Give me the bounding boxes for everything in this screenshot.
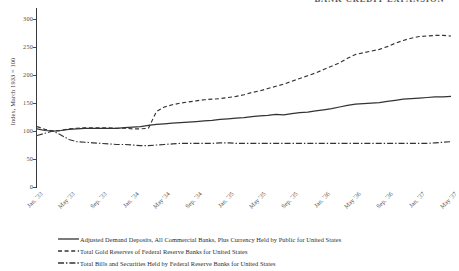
y-axis-title: Index, March 1933 = 100	[9, 37, 16, 147]
x-tick-label: Jan. '36	[307, 190, 330, 213]
legend-item-1[interactable]: Adjusted Demand Deposits, All Commercial…	[58, 233, 450, 245]
y-tick-label: 0	[3, 183, 33, 190]
y-tick-label: 250	[3, 43, 33, 50]
legend-line-swatch	[58, 258, 80, 268]
x-tick-label: Sep. '34	[180, 190, 203, 213]
x-tick-label: May '37	[435, 190, 458, 213]
x-tick-label: Jan. '34	[116, 190, 139, 213]
legend-label: Adjusted Demand Deposits, All Commercial…	[80, 236, 341, 243]
x-tick-label: Jan. '37	[403, 190, 426, 213]
legend-line-swatch	[58, 246, 80, 256]
x-tick-label: Sep. '33	[84, 190, 107, 213]
x-tick-label: Sep. '35	[275, 190, 298, 213]
x-tick-label: May '34	[148, 190, 171, 213]
x-tick-label: May '35	[244, 190, 267, 213]
chart-legend: Adjusted Demand Deposits, All Commercial…	[58, 233, 450, 269]
series-line-2	[37, 35, 451, 131]
y-tick-mark	[33, 159, 36, 160]
legend-label: Total Gold Reserves of Federal Reserve B…	[80, 248, 248, 255]
series-line-1	[37, 96, 451, 131]
chart-clipped-title: BANK CREDIT EXPANSION	[300, 0, 459, 3]
y-tick-mark	[33, 187, 36, 188]
series-line-3	[37, 131, 451, 146]
y-tick-label: 100	[3, 127, 33, 134]
series-lines	[37, 8, 451, 187]
y-tick-label: 150	[3, 99, 33, 106]
x-tick-label: Jan. '35	[212, 190, 235, 213]
plot-area	[37, 8, 451, 187]
legend-label: Total Bills and Securities Held by Feder…	[80, 260, 275, 267]
chart-figure: BANK CREDIT EXPANSION 050100150200250300…	[0, 0, 459, 271]
x-axis-ticks: Jan. '33May '33Sep. '33Jan. '34May '34Se…	[37, 188, 451, 228]
legend-line-swatch	[58, 234, 80, 244]
x-tick-label: May '36	[339, 190, 362, 213]
y-tick-mark	[33, 47, 36, 48]
y-axis-ticks: 050100150200250300	[0, 0, 33, 271]
legend-item-2[interactable]: Total Gold Reserves of Federal Reserve B…	[58, 245, 450, 257]
y-tick-mark	[33, 103, 36, 104]
y-tick-label: 300	[3, 15, 33, 22]
x-tick-label: May '33	[52, 190, 75, 213]
y-tick-mark	[33, 75, 36, 76]
x-tick-label: Sep. '36	[371, 190, 394, 213]
y-tick-mark	[33, 19, 36, 20]
y-tick-mark	[33, 131, 36, 132]
legend-item-3[interactable]: Total Bills and Securities Held by Feder…	[58, 257, 450, 269]
y-tick-label: 200	[3, 71, 33, 78]
y-tick-label: 50	[3, 155, 33, 162]
